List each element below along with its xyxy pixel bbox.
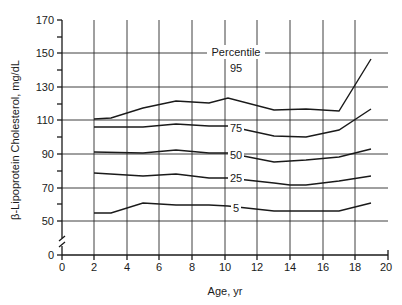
y-axis [57, 20, 65, 255]
x-axis-title: Age, yr [208, 285, 243, 297]
label-p5: 5 [233, 202, 239, 214]
y-tick-label: 0 [48, 249, 54, 261]
y-tick-label: 50 [42, 215, 54, 227]
x-tick-labels: 0 2 4 6 8 10 12 14 16 18 20 [59, 261, 392, 273]
label-p75: 75 [230, 122, 242, 134]
label-p25: 25 [230, 172, 242, 184]
x-tick-label: 8 [189, 261, 195, 273]
x-tick-label: 0 [59, 261, 65, 273]
curve-labels: Percentile 95 75 50 25 5 [207, 45, 265, 214]
x-tick-label: 20 [380, 261, 392, 273]
y-tick-label: 90 [42, 148, 54, 160]
x-tick-label: 4 [124, 261, 130, 273]
label-p95: 95 [230, 62, 242, 74]
x-tick-label: 10 [219, 261, 231, 273]
percentile-chart: 170 150 130 110 90 70 50 0 0 2 4 6 8 10 … [0, 0, 402, 305]
x-tick-label: 16 [317, 261, 329, 273]
legend-title: Percentile [212, 46, 261, 58]
y-tick-labels: 170 150 130 110 90 70 50 0 [36, 14, 54, 261]
y-tick-label: 150 [36, 47, 54, 59]
x-tick-label: 18 [349, 261, 361, 273]
label-p50: 50 [230, 149, 242, 161]
x-tick-label: 2 [91, 261, 97, 273]
x-tick-label: 14 [284, 261, 296, 273]
y-tick-label: 70 [42, 182, 54, 194]
percentile-curves [94, 59, 371, 213]
y-tick-label: 170 [36, 14, 54, 26]
x-tick-label: 6 [156, 261, 162, 273]
y-tick-label: 110 [36, 114, 54, 126]
x-tick-label: 12 [251, 261, 263, 273]
y-axis-title: β-Lipoprotein Cholesterol, mg/dL [9, 60, 21, 220]
y-tick-label: 130 [36, 81, 54, 93]
